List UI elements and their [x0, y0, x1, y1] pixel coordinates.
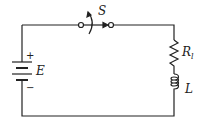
- switch-label: S: [98, 4, 106, 18]
- battery-minus-label: −: [26, 82, 34, 93]
- inductor-label: L: [184, 82, 193, 96]
- battery-label: E: [35, 64, 45, 78]
- wire-left-lower: [22, 80, 174, 116]
- switch-symbol: [79, 12, 114, 34]
- inductor-symbol: [171, 74, 179, 100]
- resistor-label: Rl: [181, 45, 194, 61]
- circuit-diagram: S + E − Rl L: [0, 0, 202, 122]
- battery-symbol: [12, 62, 32, 80]
- resistor-symbol: [170, 40, 178, 74]
- wire-top-right: [113, 25, 174, 40]
- battery-plus-label: +: [26, 50, 34, 61]
